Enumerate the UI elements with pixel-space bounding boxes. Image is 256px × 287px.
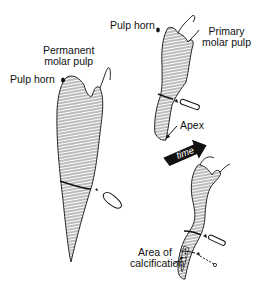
primary-pulp-horn-label: Pulp horn <box>110 20 155 31</box>
calcification-line2: calcification <box>130 258 184 269</box>
pulp-diagram: Permanent molar pulp Pulp horn Pulp horn… <box>0 0 256 287</box>
calcification-label: Area of calcification <box>130 247 184 269</box>
permanent-molar-title: Permanent molar pulp <box>43 45 94 67</box>
pulp-horn-marker <box>61 77 65 82</box>
primary-title-line2: molar pulp <box>202 37 251 48</box>
permanent-molar-pulp <box>57 68 123 262</box>
primary-molar-title: Primary molar pulp <box>202 26 251 48</box>
permanent-pulp-horn-label: Pulp horn <box>10 74 55 85</box>
permanent-title-line2: molar pulp <box>43 56 94 67</box>
apex-label: Apex <box>180 120 204 131</box>
